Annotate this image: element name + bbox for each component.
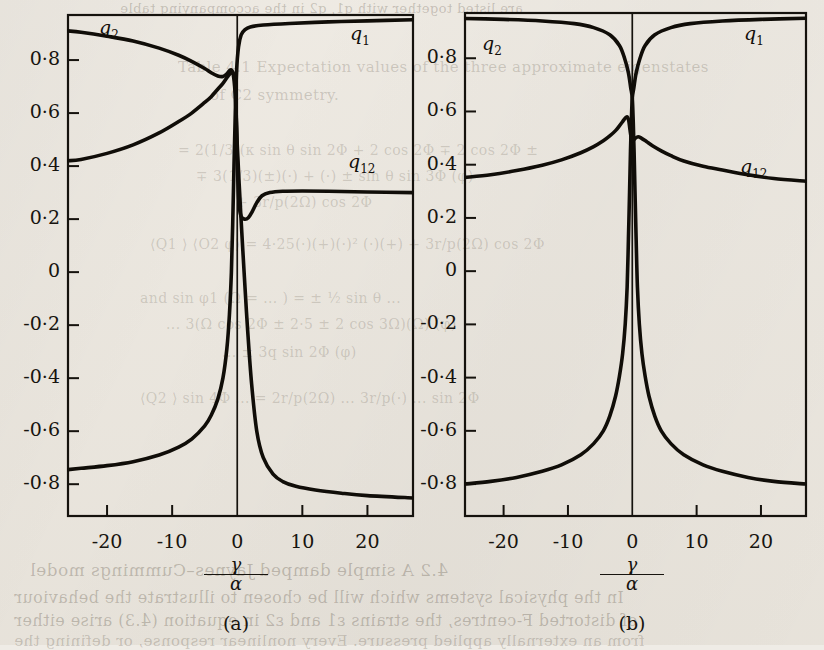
panel-b: q2 q1 q12 γ α (b) 0·80·60·40·20-0·2-0·4-… <box>400 0 824 560</box>
x-tick-label: 0 <box>205 530 269 552</box>
y-tick-label: -0·2 <box>393 311 457 333</box>
x-tick-label: -10 <box>536 530 600 552</box>
y-tick-label: -0·8 <box>0 471 60 493</box>
panel-b-x-axis-title: γ α <box>600 556 664 593</box>
panel-a-caption: (a) <box>204 612 268 634</box>
y-tick-label: -0·4 <box>0 365 60 387</box>
curve-label-b-q12: q12 <box>740 155 767 181</box>
y-tick-label: 0·8 <box>393 45 457 67</box>
y-tick-label: 0·8 <box>0 47 60 69</box>
panel-a: q2 q1 q12 γ α (a) 0·80·60·40·20-0·2-0·4-… <box>0 0 430 560</box>
x-tick-label: 0 <box>600 530 664 552</box>
y-tick-label: -0·2 <box>0 312 60 334</box>
panel-a-plot <box>0 0 430 560</box>
x-tick-label: 10 <box>665 530 729 552</box>
y-tick-label: 0·6 <box>0 100 60 122</box>
y-tick-label: 0 <box>0 259 60 281</box>
x-tick-label: 20 <box>729 530 793 552</box>
panel-b-plot <box>400 0 824 560</box>
y-tick-label: 0·6 <box>393 98 457 120</box>
curve-label-b-q1: q1 <box>744 22 764 48</box>
y-tick-label: 0·4 <box>393 152 457 174</box>
y-tick-label: -0·6 <box>0 418 60 440</box>
panel-a-x-axis-title: γ α <box>204 556 268 593</box>
x-tick-label: 10 <box>270 530 334 552</box>
y-tick-label: 0·2 <box>0 206 60 228</box>
x-tick-label: -10 <box>140 530 204 552</box>
curve-label-a-q1: q1 <box>350 22 370 48</box>
y-tick-label: -0·4 <box>393 365 457 387</box>
y-tick-label: 0·2 <box>393 205 457 227</box>
curve-label-a-q12: q12 <box>348 150 375 176</box>
x-tick-label: -20 <box>75 530 139 552</box>
panel-b-caption: (b) <box>600 612 664 634</box>
y-tick-label: -0·6 <box>393 418 457 440</box>
curve-label-a-q2: q2 <box>99 16 119 42</box>
x-tick-label: -20 <box>472 530 536 552</box>
y-tick-label: 0 <box>393 258 457 280</box>
curve-label-b-q2: q2 <box>482 32 502 58</box>
x-tick-label: 20 <box>335 530 399 552</box>
y-tick-label: -0·8 <box>393 471 457 493</box>
y-tick-label: 0·4 <box>0 153 60 175</box>
